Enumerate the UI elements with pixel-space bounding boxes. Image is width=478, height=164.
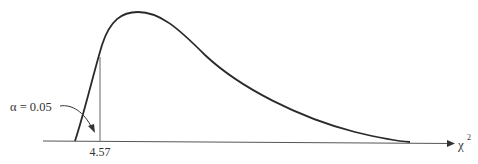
- x-axis-label-superscript: 2: [467, 133, 471, 142]
- chi-square-chart: α = 0.05 4.57 χ 2: [0, 0, 478, 164]
- alpha-label: α = 0.05: [10, 100, 52, 114]
- x-axis-label: χ: [457, 137, 464, 152]
- alpha-pointer-arrow: [60, 106, 92, 128]
- x-axis-arrowhead-icon: [447, 140, 455, 147]
- critical-value-label: 4.57: [90, 145, 111, 159]
- alpha-pointer-arrowhead-icon: [88, 124, 95, 133]
- x-axis: [43, 141, 452, 144]
- density-curve: [75, 12, 410, 142]
